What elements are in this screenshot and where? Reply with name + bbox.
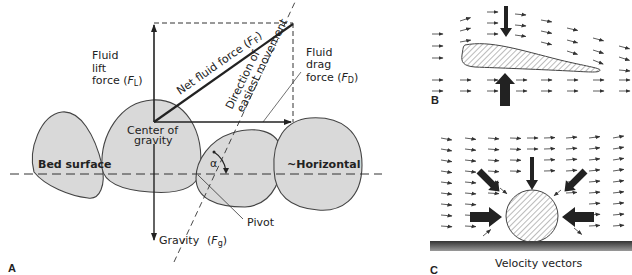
panel-a-label: A (8, 262, 16, 274)
velocity-vector (541, 20, 552, 22)
velocity-vector (566, 148, 577, 149)
velocity-vector (460, 18, 471, 21)
velocity-vector (515, 35, 526, 37)
velocity-vector (488, 149, 499, 150)
velocity-vector (515, 25, 526, 26)
pressure-arrow-right (562, 207, 594, 227)
velocity-vector (441, 138, 452, 140)
panel-c: Velocity vectors C (430, 136, 632, 275)
velocity-vector (465, 149, 476, 150)
velocity-vector (589, 192, 600, 193)
pressure-arrow-upper-left (474, 166, 504, 196)
velocity-vector (593, 50, 604, 53)
velocity-vector (488, 193, 499, 194)
velocity-vector (465, 193, 476, 194)
velocity-vector (566, 192, 577, 193)
center-of-gravity-label-line2: gravity (134, 134, 173, 147)
velocity-vector (589, 181, 600, 182)
velocity-vector (460, 28, 471, 31)
alpha-arc-start-dot (213, 151, 216, 154)
velocity-vector (541, 31, 552, 33)
grain-left (32, 112, 103, 198)
velocity-vector (567, 40, 578, 43)
velocity-vector (441, 215, 452, 216)
velocity-vector (589, 159, 600, 160)
velocity-vector (619, 70, 630, 71)
velocity-vector (554, 190, 561, 196)
panel-a: Fluid lift force (FL) Net fluid force (F… (8, 2, 382, 274)
airfoil (462, 44, 600, 72)
velocity-vector (619, 57, 630, 60)
horizontal-label: ~Horizontal (287, 158, 360, 171)
velocity-vector (441, 160, 452, 162)
velocity-vector (566, 159, 577, 160)
velocity-vector (566, 137, 577, 138)
velocity-vector (574, 228, 582, 234)
velocity-vector (465, 226, 476, 227)
velocity-vector (613, 181, 624, 182)
velocity-vector (488, 160, 499, 161)
velocity-vector (589, 148, 600, 149)
panel-b-label: B (431, 94, 439, 106)
velocity-vector (465, 182, 476, 183)
velocity-vector (589, 203, 600, 204)
velocity-vector (441, 226, 452, 227)
velocity-vector (465, 160, 476, 161)
gravity-label: Gravity (159, 234, 200, 247)
velocity-vector (613, 192, 624, 193)
velocity-vector (441, 149, 452, 151)
velocity-vector (589, 170, 600, 171)
drag-label-line2: drag (306, 58, 331, 71)
drag-label-line3: force (FD) (306, 71, 358, 85)
velocity-vector (619, 46, 630, 49)
velocity-vector (465, 204, 476, 205)
velocity-vector (488, 138, 499, 139)
velocity-vector (465, 171, 476, 172)
velocity-vector (567, 51, 578, 54)
pivot-label: Pivot (247, 216, 275, 229)
velocity-vector (593, 60, 603, 64)
pressure-arrow-top (526, 157, 538, 190)
velocity-vector (613, 136, 624, 138)
lift-label-line1: Fluid (92, 49, 118, 62)
velocity-vector (441, 193, 452, 194)
velocity-vector (488, 171, 499, 172)
velocity-vector (593, 38, 604, 41)
panel-b: B (431, 6, 630, 106)
velocity-vector (589, 225, 600, 226)
velocity-vector (483, 230, 491, 236)
velocity-vector (589, 137, 600, 138)
drag-leader-line (263, 72, 301, 122)
velocity-vector (613, 214, 624, 215)
velocity-vector (441, 182, 452, 183)
velocity-vector (500, 188, 507, 194)
alpha-label: α (210, 157, 217, 170)
lift-label-line3: force (FL) (92, 74, 143, 88)
velocity-vector (465, 138, 476, 139)
velocity-vector (441, 171, 452, 173)
velocity-vector (613, 158, 624, 160)
bed-surface-label: Bed surface (38, 158, 112, 171)
velocity-vector (613, 169, 624, 171)
velocity-vector (613, 147, 624, 149)
velocity-vector (566, 170, 577, 171)
gravity-symbol: (Fg) (207, 234, 227, 248)
velocity-vector (567, 28, 578, 31)
velocity-vector (613, 203, 624, 204)
bed-surface-bar (430, 241, 632, 251)
velocity-vector (541, 42, 552, 45)
downward-pressure-arrow (500, 6, 512, 37)
velocity-vectors-caption: Velocity vectors (495, 257, 583, 270)
grain-sphere (506, 190, 558, 242)
velocity-vector (460, 40, 471, 42)
diagram-canvas: Fluid lift force (FL) Net fluid force (F… (0, 0, 632, 275)
grain-pivot (196, 130, 282, 207)
upward-lift-arrow (495, 73, 515, 106)
panel-c-label: C (430, 264, 438, 275)
velocity-vector (515, 14, 526, 15)
velocity-vector (613, 225, 624, 226)
velocity-vector (441, 204, 452, 205)
pressure-arrow-left (470, 207, 502, 227)
velocity-vectors-b (432, 12, 630, 91)
